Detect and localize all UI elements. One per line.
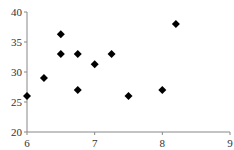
y-tick-label: 25	[11, 96, 23, 108]
diamond-marker-icon	[91, 60, 99, 68]
diamond-marker-icon	[125, 92, 133, 100]
x-tick-label: 9	[227, 137, 233, 149]
diamond-marker-icon	[57, 50, 65, 58]
diamond-marker-icon	[57, 30, 65, 38]
diamond-marker-icon	[74, 50, 82, 58]
diamond-marker-icon	[23, 92, 31, 100]
y-tick-label: 20	[11, 126, 23, 138]
diamond-marker-icon	[74, 86, 82, 94]
diamond-marker-icon	[158, 86, 166, 94]
data-points	[23, 20, 180, 100]
x-tick-label: 7	[92, 137, 98, 149]
x-axis: 6789	[24, 132, 233, 149]
diamond-marker-icon	[108, 50, 116, 58]
diamond-marker-icon	[40, 74, 48, 82]
x-tick-label: 6	[24, 137, 30, 149]
y-tick-label: 35	[11, 36, 23, 48]
y-tick-label: 40	[11, 6, 23, 18]
y-tick-label: 30	[11, 66, 23, 78]
x-tick-label: 8	[160, 137, 166, 149]
scatter-chart: 2025303540 6789	[0, 0, 234, 150]
y-axis: 2025303540	[11, 6, 27, 138]
diamond-marker-icon	[172, 20, 180, 28]
